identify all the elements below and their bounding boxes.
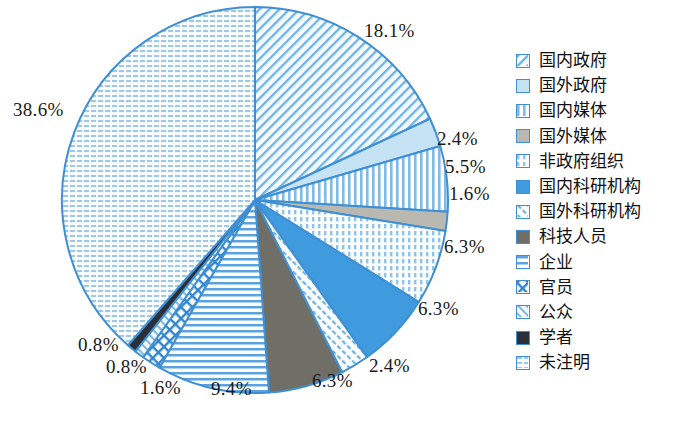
legend-item[interactable]: 国外科研机构	[516, 199, 676, 224]
legend-swatch-icon	[516, 180, 530, 194]
legend-swatch-icon	[516, 305, 530, 319]
legend-item-label: 国内政府	[539, 52, 607, 69]
slice-percentage-label: 38.6%	[13, 99, 64, 121]
legend-item[interactable]: 官员	[516, 275, 676, 300]
legend-item-label: 国内科研机构	[539, 178, 641, 195]
legend-item[interactable]: 企业	[516, 250, 676, 275]
legend-swatch-icon	[516, 356, 530, 370]
legend-item-label: 国外媒体	[539, 128, 607, 145]
slice-percentage-label: 0.8%	[106, 356, 147, 378]
slice-percentage-label: 9.4%	[211, 378, 252, 400]
legend-item-label: 非政府组织	[539, 153, 624, 170]
slice-percentage-label: 2.4%	[437, 128, 478, 150]
slice-percentage-label: 5.5%	[445, 156, 486, 178]
legend-item[interactable]: 非政府组织	[516, 149, 676, 174]
pie-chart: 18.1%2.4%5.5%1.6%6.3%6.3%2.4%6.3%9.4%1.6…	[0, 0, 677, 422]
legend-item[interactable]: 国外媒体	[516, 124, 676, 149]
legend-swatch-icon	[516, 54, 530, 68]
legend: 国内政府国外政府国内媒体国外媒体非政府组织国内科研机构国外科研机构科技人员企业官…	[516, 48, 676, 375]
legend-item[interactable]: 学者	[516, 325, 676, 350]
legend-item-label: 国外政府	[539, 77, 607, 94]
legend-swatch-icon	[516, 79, 530, 93]
slice-percentage-label: 6.3%	[444, 236, 485, 258]
slice-percentage-label: 18.1%	[364, 20, 415, 42]
legend-item-label: 官员	[539, 279, 573, 296]
pie-slices	[62, 7, 448, 393]
legend-item-label: 科技人员	[539, 228, 607, 245]
slice-percentage-label: 6.3%	[312, 370, 353, 392]
legend-item[interactable]: 国外政府	[516, 73, 676, 98]
slice-percentage-label: 1.6%	[140, 377, 181, 399]
legend-item[interactable]: 国内科研机构	[516, 174, 676, 199]
slice-percentage-label: 2.4%	[369, 355, 410, 377]
legend-item[interactable]: 国内政府	[516, 48, 676, 73]
legend-swatch-icon	[516, 104, 530, 118]
legend-item[interactable]: 国内媒体	[516, 98, 676, 123]
slice-percentage-label: 6.3%	[418, 298, 459, 320]
legend-item[interactable]: 科技人员	[516, 224, 676, 249]
legend-item-label: 企业	[539, 254, 573, 271]
legend-item-label: 未注明	[539, 354, 590, 371]
legend-item-label: 国内媒体	[539, 102, 607, 119]
legend-item[interactable]: 公众	[516, 300, 676, 325]
legend-swatch-icon	[516, 205, 530, 219]
legend-swatch-icon	[516, 230, 530, 244]
legend-item-label: 国外科研机构	[539, 203, 641, 220]
legend-item[interactable]: 未注明	[516, 350, 676, 375]
slice-percentage-label: 1.6%	[449, 183, 490, 205]
legend-swatch-icon	[516, 280, 530, 294]
legend-item-label: 公众	[539, 304, 573, 321]
legend-swatch-icon	[516, 255, 530, 269]
legend-swatch-icon	[516, 331, 530, 345]
legend-swatch-icon	[516, 154, 530, 168]
slice-percentage-label: 0.8%	[78, 334, 119, 356]
legend-item-label: 学者	[539, 329, 573, 346]
legend-swatch-icon	[516, 129, 530, 143]
